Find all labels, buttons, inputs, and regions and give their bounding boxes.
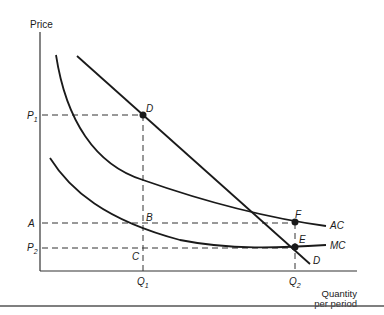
average-cost-curve xyxy=(56,55,326,226)
a-label: A xyxy=(27,218,35,229)
x-axis-label-line2: per period xyxy=(314,298,357,309)
natural-monopoly-diagram: Price Quantity per period P1 A P2 Q1 Q2 … xyxy=(0,0,384,315)
q1-label: Q1 xyxy=(137,276,149,289)
demand-curve-label: D xyxy=(313,255,320,266)
p2-label: P2 xyxy=(27,242,38,255)
marginal-cost-curve xyxy=(50,158,326,247)
point-c-label: C xyxy=(132,251,140,262)
y-axis-label: Price xyxy=(30,19,53,30)
ac-curve-label: AC xyxy=(329,220,345,231)
point-f-label: F xyxy=(295,209,302,220)
point-e-label: E xyxy=(299,234,306,245)
point-e-marker xyxy=(292,244,299,251)
point-b-label: B xyxy=(146,212,153,223)
mc-curve-label: MC xyxy=(330,240,346,251)
demand-curve xyxy=(77,56,310,264)
q2-label: Q2 xyxy=(289,276,301,289)
p1-label: P1 xyxy=(27,110,38,123)
point-d-label: D xyxy=(146,103,153,114)
